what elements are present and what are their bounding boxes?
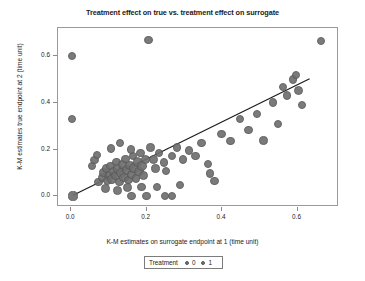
- legend-marker-icon: [185, 261, 189, 265]
- y-tick-label: 0.0: [24, 191, 50, 198]
- data-point: [173, 143, 181, 151]
- y-tick-label: 0.2: [24, 145, 50, 152]
- legend-entry[interactable]: 1: [201, 259, 212, 266]
- legend-label: 1: [208, 259, 212, 266]
- data-point: [269, 98, 277, 106]
- data-point: [292, 71, 300, 79]
- x-tick-label: 0.6: [284, 213, 310, 220]
- legend-entry[interactable]: 0: [185, 259, 196, 266]
- data-point: [107, 144, 115, 152]
- y-tick-mark: [53, 55, 57, 56]
- data-point: [217, 130, 225, 138]
- legend-entries: 01: [185, 259, 218, 266]
- data-point: [144, 36, 152, 44]
- legend-marker-icon: [201, 261, 205, 265]
- y-tick-mark: [53, 102, 57, 103]
- data-point: [101, 184, 110, 193]
- y-tick-label: 0.4: [24, 98, 50, 105]
- data-point: [93, 151, 101, 159]
- data-point: [127, 192, 135, 200]
- page-title: Treatment effect on true vs. treatment e…: [0, 8, 365, 17]
- data-point: [298, 101, 306, 109]
- scatter-plot-figure: Treatment effect on true vs. treatment e…: [0, 0, 365, 281]
- y-tick-label: 0.6: [24, 51, 50, 58]
- data-point: [146, 143, 154, 151]
- x-tick-mark: [70, 207, 71, 211]
- x-tick-label: 0.4: [208, 213, 234, 220]
- data-point: [151, 164, 159, 172]
- x-tick-mark: [297, 207, 298, 211]
- y-tick-mark: [53, 149, 57, 150]
- legend: Treatment 01: [144, 256, 223, 269]
- legend-label: 0: [192, 259, 196, 266]
- data-point: [197, 139, 205, 147]
- legend-title: Treatment: [149, 259, 178, 266]
- data-point: [259, 136, 267, 144]
- data-point: [142, 192, 150, 200]
- data-point: [68, 191, 77, 200]
- x-tick-mark: [221, 207, 222, 211]
- data-point: [283, 91, 291, 99]
- y-tick-mark: [53, 195, 57, 196]
- y-axis-title: K-M estimates true endpoint at 2 (time u…: [16, 22, 23, 192]
- x-tick-mark: [146, 207, 147, 211]
- data-point: [137, 183, 145, 191]
- x-axis-title: K-M estimates on surrogate endpoint at 1…: [0, 238, 365, 245]
- data-point: [204, 160, 212, 168]
- plot-canvas: [58, 28, 337, 205]
- data-point: [294, 86, 303, 95]
- data-point: [226, 137, 234, 145]
- x-tick-label: 0.0: [57, 213, 83, 220]
- x-tick-label: 0.2: [133, 213, 159, 220]
- data-point: [113, 186, 122, 195]
- data-point: [127, 145, 135, 153]
- data-point: [244, 126, 252, 134]
- plot-frame: [57, 27, 338, 206]
- data-point: [179, 155, 187, 163]
- data-point: [160, 158, 168, 166]
